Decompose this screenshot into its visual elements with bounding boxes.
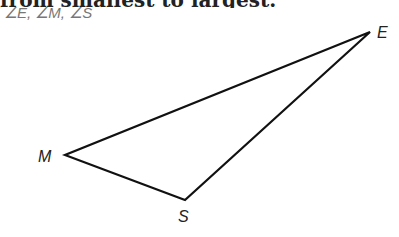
vertex-label-m: M <box>38 148 52 165</box>
triangle-ems <box>65 32 370 200</box>
triangle-diagram: E M S <box>0 0 399 237</box>
vertex-label-e: E <box>377 24 388 41</box>
vertex-label-s: S <box>178 208 189 225</box>
